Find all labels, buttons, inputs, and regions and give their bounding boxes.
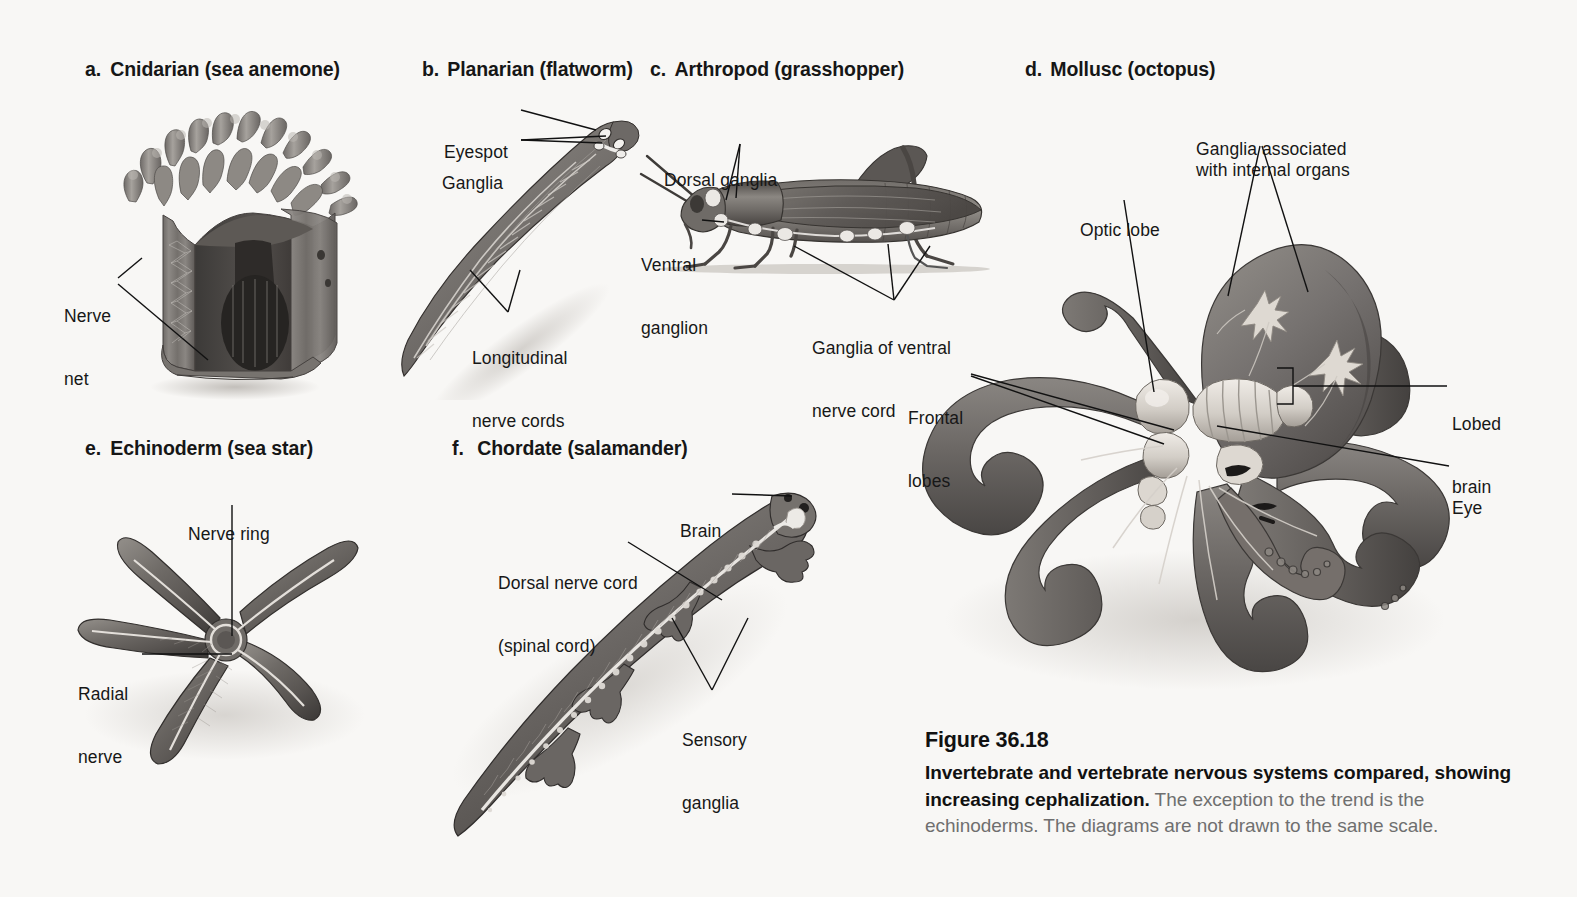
panel-title-e: Echinoderm (sea star)	[110, 437, 313, 459]
panel-title-a: Cnidarian (sea anemone)	[110, 58, 340, 80]
panel-f-leaders-brain	[730, 485, 810, 515]
panel-heading-d: d. Mollusc (octopus)	[1025, 58, 1215, 81]
panel-d-leaders-frontal	[968, 368, 1198, 448]
label-ganglia-planarian: Ganglia	[442, 131, 503, 236]
figure-canvas: a. Cnidarian (sea anemone)	[0, 0, 1577, 897]
panel-letter-d: d.	[1025, 58, 1045, 81]
label-sensory-ganglia: Sensory ganglia	[682, 688, 747, 856]
panel-title-c: Arthropod (grasshopper)	[675, 58, 905, 80]
panel-title-f: Chordate (salamander)	[477, 437, 687, 459]
panel-heading-f: f. Chordate (salamander)	[452, 437, 688, 460]
panel-d-leaders-visceral	[1180, 140, 1400, 300]
panel-letter-c: c.	[650, 58, 670, 81]
figure-caption-block: Figure 36.18 Invertebrate and vertebrate…	[925, 728, 1535, 840]
panel-e-leaders-radial	[140, 645, 240, 675]
label-radial-nerve: Radial nerve	[78, 642, 128, 810]
label-dorsal-nerve-cord: Dorsal nerve cord (spinal cord)	[498, 531, 638, 699]
panel-letter-e: e.	[85, 437, 105, 460]
panel-e-leaders-ring	[220, 503, 260, 643]
panel-heading-a: a. Cnidarian (sea anemone)	[85, 58, 340, 81]
figure-number: Figure 36.18	[925, 728, 1535, 753]
label-nerve-net: Nerve net	[64, 264, 111, 432]
panel-heading-b: b. Planarian (flatworm)	[422, 58, 633, 81]
panel-letter-f: f.	[452, 437, 472, 460]
label-frontal-lobes: Frontal lobes	[908, 366, 963, 534]
panel-f-leaders-dnc	[626, 538, 736, 608]
panel-title-b: Planarian (flatworm)	[447, 58, 632, 80]
figure-caption-text: Invertebrate and vertebrate nervous syst…	[925, 760, 1525, 840]
panel-d-leaders-eye	[1215, 420, 1455, 480]
panel-f-leaders-sensory	[660, 612, 790, 694]
panel-letter-a: a.	[85, 58, 105, 81]
label-ventral-ganglion: Ventral ganglion	[641, 213, 708, 381]
panel-heading-e: e. Echinoderm (sea star)	[85, 437, 313, 460]
panel-heading-c: c. Arthropod (grasshopper)	[650, 58, 904, 81]
anemone-tentacles	[124, 111, 357, 215]
panel-title-d: Mollusc (octopus)	[1050, 58, 1215, 80]
label-eye: Eye	[1452, 456, 1482, 561]
panel-d-leaders-lobedbrain	[1275, 362, 1455, 412]
panel-letter-b: b.	[422, 58, 442, 81]
